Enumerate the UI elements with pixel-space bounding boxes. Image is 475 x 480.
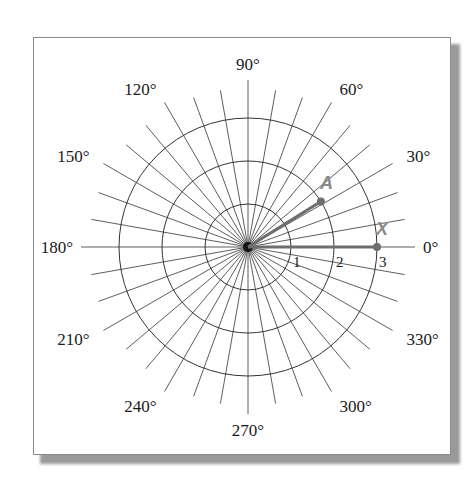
- angle-label-270: 270°: [232, 421, 264, 440]
- ring-label-2: 2: [336, 254, 344, 270]
- angle-label-300: 300°: [340, 397, 372, 416]
- angle-label-150: 150°: [57, 147, 89, 166]
- angle-label-240: 240°: [124, 397, 156, 416]
- vector-label-x: X: [375, 219, 389, 239]
- angle-label-120: 120°: [124, 80, 156, 99]
- angle-label-90: 90°: [236, 55, 260, 74]
- polar-grid: AX 0°30°60°90°120°150°180°210°240°270°30…: [0, 0, 475, 480]
- ring-label-3: 3: [379, 254, 387, 270]
- angle-label-60: 60°: [340, 80, 364, 99]
- ring-labels: 123: [293, 254, 387, 270]
- ring-label-1: 1: [293, 254, 301, 270]
- angle-label-30: 30°: [407, 147, 431, 166]
- angle-label-210: 210°: [57, 330, 89, 349]
- point-x: [373, 243, 381, 251]
- angle-label-0: 0°: [423, 238, 438, 257]
- angle-label-180: 180°: [41, 238, 73, 257]
- point-a: [317, 197, 325, 205]
- vector-label-a: A: [319, 173, 333, 193]
- angle-label-330: 330°: [407, 330, 439, 349]
